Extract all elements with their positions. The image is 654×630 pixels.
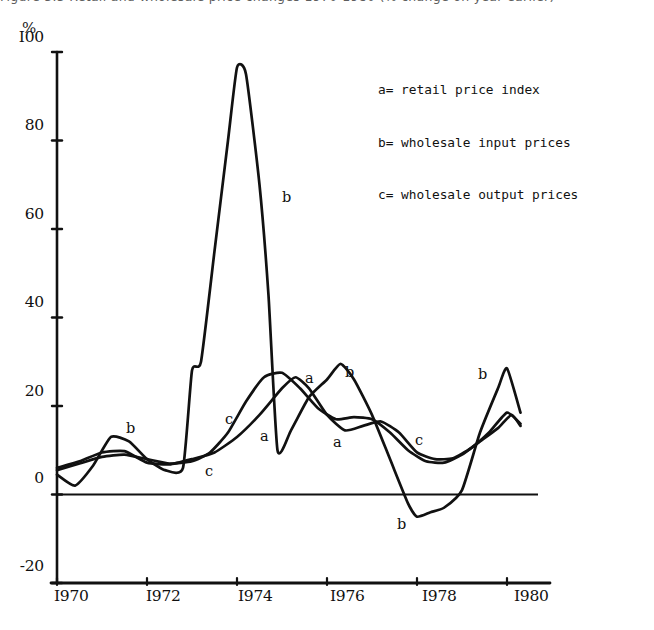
series-annotation-a-3: a — [260, 428, 269, 444]
series-annotation-b-6: b — [345, 364, 354, 380]
series-line-b — [57, 64, 521, 517]
series-annotation-b-9: b — [397, 516, 406, 532]
series-annotation-b-0: b — [126, 420, 135, 436]
series-annotation-b-1: b — [282, 189, 291, 205]
series-annotation-a-7: a — [333, 434, 342, 450]
series-annotation-c-8: c — [415, 432, 423, 448]
series-annotation-c-2: c — [225, 411, 233, 427]
chart-plot-area — [0, 0, 654, 630]
series-annotation-b-10: b — [478, 366, 487, 382]
series-annotation-a-5: a — [305, 370, 314, 386]
series-annotation-c-4: c — [205, 463, 213, 479]
